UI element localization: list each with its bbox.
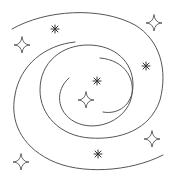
asterisk-icon [94, 150, 102, 158]
asterisk-icon [93, 77, 101, 85]
sparkle-icon [146, 15, 162, 31]
galaxy-illustration [0, 0, 175, 181]
sparkle-stars [13, 15, 162, 170]
spiral-arm-inner [59, 58, 132, 126]
asterisk-icon [51, 25, 59, 33]
spiral-arm-outer-bottom [14, 42, 163, 170]
sparkle-icon [78, 92, 94, 108]
spiral-arm-outer-top [12, 13, 163, 139]
asterisk-icon [142, 62, 150, 70]
sparkle-icon [144, 131, 160, 147]
sparkle-icon [14, 37, 30, 53]
sparkle-icon [13, 154, 29, 170]
spiral-galaxy-icon [0, 0, 175, 181]
